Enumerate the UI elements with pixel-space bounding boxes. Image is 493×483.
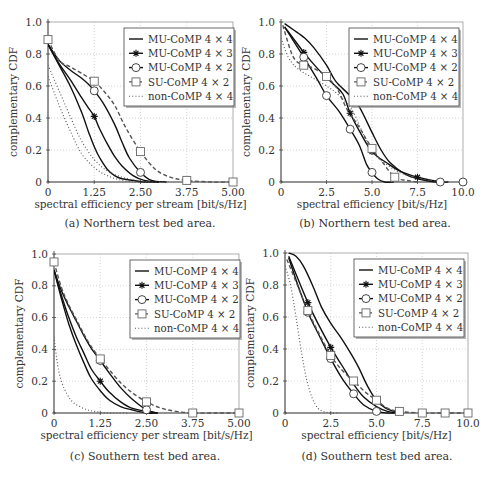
legend-entry: MU-CoMP 4 × 2 <box>373 62 458 73</box>
circle-marker <box>357 64 365 72</box>
y-tick-label: 0 <box>41 407 48 419</box>
square-marker <box>350 377 358 385</box>
legend-entry: non-CoMP 4 × 4 <box>378 322 463 333</box>
caption-a: (a) Northern test bed area. <box>55 217 225 230</box>
legend-entry: MU-CoMP 4 × 4 <box>373 34 458 45</box>
square-marker <box>441 409 449 417</box>
legend-entry: MU-CoMP 4 × 3 <box>148 48 233 59</box>
y-tick-label: 0.4 <box>31 343 48 355</box>
figure: 01.252.503.755.0000.20.40.60.81.0spectra… <box>0 0 493 483</box>
x-tick-label: 2.50 <box>129 186 152 198</box>
y-tick-label: 0 <box>268 176 275 188</box>
circle-marker <box>323 92 331 100</box>
legend-entry: MU-CoMP 4 × 2 <box>378 293 463 304</box>
square-marker <box>327 351 335 359</box>
legend-entry: SU-CoMP 4 × 2 <box>148 77 229 88</box>
star-marker <box>133 50 140 57</box>
x-tick-label: 0 <box>282 417 289 429</box>
x-tick-label: 2.5 <box>322 417 339 429</box>
x-axis-label: spectral efficiency per stream [bit/s/Hz… <box>40 429 252 441</box>
circle-marker <box>373 407 381 415</box>
square-marker <box>362 309 370 317</box>
circle-marker <box>346 125 354 133</box>
star-marker <box>91 113 98 120</box>
legend-entry: SU-CoMP 4 × 2 <box>378 308 459 319</box>
circle-marker <box>90 87 98 95</box>
square-marker <box>138 310 146 318</box>
circle-marker <box>138 296 146 304</box>
chart-a: 01.252.503.755.0000.20.40.60.81.0spectra… <box>7 16 247 211</box>
y-tick-label: 0.8 <box>258 48 275 60</box>
square-marker <box>96 355 104 363</box>
legend: MU-CoMP 4 × 4MU-CoMP 4 × 3MU-CoMP 4 × 2S… <box>124 28 236 108</box>
y-tick-label: 0.8 <box>25 48 42 60</box>
y-tick-label: 0.8 <box>262 279 279 291</box>
circle-marker <box>362 295 370 303</box>
x-tick-label: 5.00 <box>221 186 244 198</box>
x-tick-label: 3.75 <box>175 186 198 198</box>
y-axis-label: complementary CDF <box>244 278 256 388</box>
x-tick-label: 0 <box>51 417 58 429</box>
caption-c: (c) Southern test bed area. <box>60 450 230 463</box>
y-tick-label: 1.0 <box>258 16 275 28</box>
y-tick-label: 0.4 <box>25 112 42 124</box>
legend: MU-CoMP 4 × 4MU-CoMP 4 × 3MU-CoMP 4 × 2S… <box>130 260 242 340</box>
y-tick-label: 1.0 <box>25 16 42 28</box>
star-marker <box>358 50 365 57</box>
legend-entry: MU-CoMP 4 × 3 <box>373 48 458 59</box>
y-tick-label: 0.8 <box>31 279 48 291</box>
square-marker <box>300 61 308 69</box>
square-marker <box>418 409 426 417</box>
y-tick-label: 0.6 <box>262 311 279 323</box>
legend-entry: MU-CoMP 4 × 4 <box>154 266 239 277</box>
y-axis-label: complementary CDF <box>7 47 19 157</box>
star-marker <box>347 110 354 117</box>
x-axis-label: spectral efficiency per stream [bit/s/Hz… <box>34 198 246 210</box>
y-tick-label: 0 <box>35 176 42 188</box>
circle-marker <box>143 406 151 414</box>
x-tick-label: 5.00 <box>227 417 250 429</box>
y-tick-label: 0.2 <box>25 144 42 156</box>
y-tick-label: 0.4 <box>258 112 275 124</box>
y-tick-label: 0.6 <box>258 80 275 92</box>
x-tick-label: 2.5 <box>318 186 335 198</box>
legend-entry: MU-CoMP 4 × 2 <box>154 294 239 305</box>
legend-entry: non-CoMP 4 × 4 <box>373 91 458 102</box>
x-tick-label: 0 <box>278 186 285 198</box>
legend: MU-CoMP 4 × 4MU-CoMP 4 × 3MU-CoMP 4 × 2S… <box>349 28 461 108</box>
square-marker <box>183 176 191 184</box>
square-marker <box>304 307 312 315</box>
legend: MU-CoMP 4 × 4MU-CoMP 4 × 3MU-CoMP 4 × 2S… <box>354 259 466 339</box>
star-marker <box>414 174 421 181</box>
legend-entry: MU-CoMP 4 × 3 <box>378 279 463 290</box>
square-marker <box>189 409 197 417</box>
caption-b: (b) Northern test bed area. <box>290 217 460 230</box>
square-marker <box>373 396 381 404</box>
legend-entry: non-CoMP 4 × 4 <box>154 323 239 334</box>
x-tick-label: 1.25 <box>89 417 112 429</box>
y-tick-label: 1.0 <box>31 248 48 260</box>
square-marker <box>90 77 98 85</box>
square-marker <box>44 36 52 44</box>
square-marker <box>50 258 58 266</box>
circle-marker <box>132 64 140 72</box>
y-tick-label: 0.6 <box>25 80 42 92</box>
x-tick-label: 0 <box>45 186 52 198</box>
x-tick-label: 5.0 <box>368 417 385 429</box>
legend-entry: MU-CoMP 4 × 3 <box>154 280 239 291</box>
x-tick-label: 7.5 <box>414 417 431 429</box>
legend-entry: MU-CoMP 4 × 4 <box>378 265 463 276</box>
legend-entry: non-CoMP 4 × 4 <box>148 91 233 102</box>
y-axis-label: complementary CDF <box>240 47 252 157</box>
circle-marker <box>137 168 145 176</box>
chart-c: 01.252.503.755.0000.20.40.60.81.0spectra… <box>13 248 253 442</box>
square-marker <box>143 398 151 406</box>
y-tick-label: 0 <box>272 407 279 419</box>
figure-canvas: 01.252.503.755.0000.20.40.60.81.0spectra… <box>0 0 493 483</box>
x-axis-label: spectral efficiency [bit/s/Hz] <box>297 198 447 210</box>
caption-d: (d) Southern test bed area. <box>292 450 462 463</box>
legend-entry: MU-CoMP 4 × 4 <box>148 34 233 45</box>
square-marker <box>357 78 365 86</box>
y-tick-label: 0.4 <box>262 343 279 355</box>
legend-entry: MU-CoMP 4 × 2 <box>148 62 233 73</box>
